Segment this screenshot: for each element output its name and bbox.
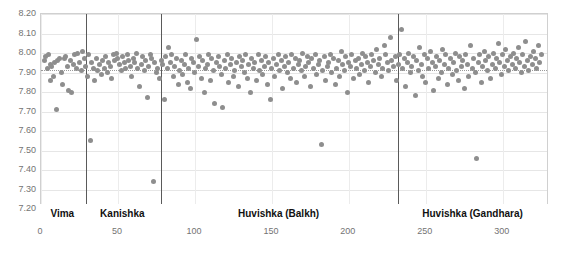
scatter-point	[271, 56, 276, 61]
scatter-point	[252, 60, 257, 65]
scatter-point	[337, 74, 342, 79]
y-axis-tick-label: 7.40	[2, 164, 36, 174]
scatter-point	[302, 74, 307, 79]
scatter-point	[294, 80, 299, 85]
scatter-point	[505, 58, 510, 63]
scatter-point	[359, 62, 364, 67]
scatter-point	[377, 56, 382, 61]
scatter-point	[483, 58, 488, 63]
scatter-point	[297, 58, 302, 63]
scatter-point	[202, 90, 207, 95]
scatter-point	[539, 52, 544, 57]
scatter-point	[351, 76, 356, 81]
scatter-point	[450, 72, 455, 77]
scatter-point	[196, 64, 201, 69]
x-axis-tick-label: 200	[340, 226, 355, 236]
y-axis-tick-label: 7.60	[2, 125, 36, 135]
group-divider	[161, 14, 162, 208]
scatter-point	[433, 64, 438, 69]
scatter-point	[409, 64, 414, 69]
x-axis-tick-label: 250	[417, 226, 432, 236]
scatter-point	[357, 72, 362, 77]
scatter-point	[220, 105, 225, 110]
scatter-point	[519, 70, 524, 75]
scatter-point	[451, 60, 456, 65]
scatter-point	[54, 107, 59, 112]
scatter-point	[388, 35, 393, 40]
scatter-point	[146, 64, 151, 69]
scatter-point	[340, 62, 345, 67]
scatter-point	[228, 62, 233, 67]
scatter-point	[282, 64, 287, 69]
scatter-point	[462, 86, 467, 91]
scatter-point	[516, 45, 521, 50]
scatter-point	[222, 58, 227, 63]
scatter-point	[525, 58, 530, 63]
scatter-point	[499, 72, 504, 77]
scatter-point	[166, 45, 171, 50]
scatter-point	[314, 72, 319, 77]
scatter-point	[423, 80, 428, 85]
scatter-point	[345, 90, 350, 95]
scatter-point	[88, 138, 93, 143]
scatter-point	[46, 52, 51, 57]
scatter-point	[477, 52, 482, 57]
scatter-point	[309, 56, 314, 61]
scatter-point	[256, 52, 261, 57]
scatter-point	[208, 78, 213, 83]
scatter-point	[85, 74, 90, 79]
scatter-point	[276, 52, 281, 57]
x-gridline	[503, 14, 504, 207]
scatter-point	[468, 43, 473, 48]
scatter-point	[251, 66, 256, 71]
scatter-point	[162, 97, 167, 102]
x-gridline	[426, 14, 427, 207]
scatter-point	[137, 84, 142, 89]
scatter-point	[491, 51, 496, 56]
scatter-point	[482, 49, 487, 54]
scatter-point	[419, 62, 424, 67]
y-gridline	[41, 112, 547, 113]
scatter-point	[473, 70, 478, 75]
scatter-point	[326, 60, 331, 65]
scatter-point	[459, 64, 464, 69]
scatter-point	[366, 80, 371, 85]
x-axis: 050100150200250300	[40, 226, 548, 240]
y-axis-tick-label: 7.20	[2, 203, 36, 213]
scatter-point	[69, 90, 74, 95]
scatter-point	[428, 49, 433, 54]
scatter-point	[479, 80, 484, 85]
x-gridline	[349, 14, 350, 207]
scatter-point	[536, 43, 541, 48]
scatter-point	[80, 49, 85, 54]
scatter-point	[239, 64, 244, 69]
scatter-point	[134, 51, 139, 56]
scatter-point	[368, 64, 373, 69]
y-axis-tick-label: 7.50	[2, 145, 36, 155]
scatter-point	[145, 95, 150, 100]
scatter-point	[236, 84, 241, 89]
scatter-point	[279, 58, 284, 63]
scatter-point	[283, 54, 288, 59]
scatter-point	[333, 82, 338, 87]
scatter-point	[363, 54, 368, 59]
scatter-point	[129, 74, 134, 79]
scatter-point	[199, 76, 204, 81]
scatter-point	[188, 86, 193, 91]
scatter-point	[399, 27, 404, 32]
scatter-point	[108, 64, 113, 69]
chart-root: 8.208.108.007.907.807.707.607.507.407.30…	[0, 0, 562, 262]
scatter-point	[226, 80, 231, 85]
y-gridline	[41, 151, 547, 152]
scatter-point	[493, 66, 498, 71]
scatter-point	[65, 64, 70, 69]
x-gridline	[41, 14, 42, 207]
scatter-point	[436, 76, 441, 81]
scatter-point	[92, 78, 97, 83]
scatter-point	[94, 56, 99, 61]
category-band: VimaKanishkaHuvishka (Balkh)Huvishka (Ga…	[40, 204, 548, 222]
scatter-point	[211, 68, 216, 73]
scatter-point	[83, 64, 88, 69]
scatter-point	[100, 58, 105, 63]
scatter-point	[285, 70, 290, 75]
